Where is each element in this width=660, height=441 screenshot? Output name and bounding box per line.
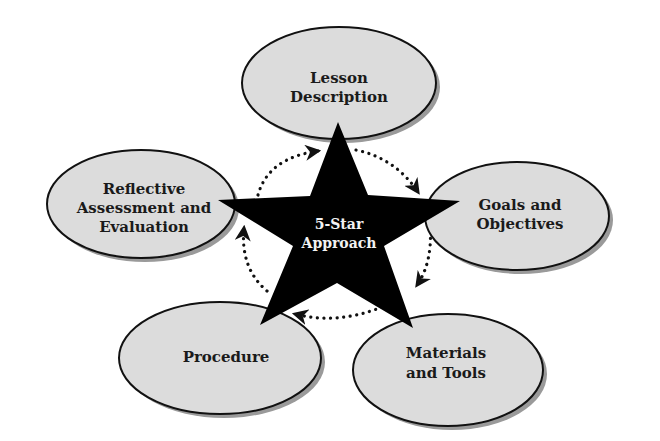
five-star-diagram: Lesson Description Goals and Objectives … <box>0 0 660 441</box>
label-line: Procedure <box>183 348 270 366</box>
node-procedure: Procedure <box>119 302 325 418</box>
label-line: and Tools <box>406 364 486 382</box>
label-line: Objectives <box>477 215 564 233</box>
label-line: Assessment and <box>76 199 212 217</box>
center-star: 5-Star Approach <box>218 122 460 328</box>
center-label-line: Approach <box>301 235 377 251</box>
arrow-materials-to-procedure <box>295 307 382 318</box>
center-label-line: 5-Star <box>315 216 364 232</box>
label-line: Reflective <box>103 180 185 198</box>
node-materials-and-tools: Materials and Tools <box>353 314 547 430</box>
label-line: Evaluation <box>99 218 189 236</box>
node-goals-and-objectives: Goals and Objectives <box>425 162 613 274</box>
arrow-goals-to-materials <box>417 225 430 285</box>
arrow-lesson-to-goals <box>356 150 418 192</box>
label-line: Goals and <box>478 196 562 214</box>
label-line: Description <box>290 88 388 106</box>
node-lesson-description: Lesson Description <box>242 27 440 143</box>
label-line: Lesson <box>310 69 368 87</box>
label-line: Materials <box>406 344 486 362</box>
arrow-procedure-to-reflective <box>243 228 267 291</box>
node-reflective-assessment: Reflective Assessment and Evaluation <box>47 150 239 262</box>
arrow-reflective-to-lesson <box>258 151 318 195</box>
